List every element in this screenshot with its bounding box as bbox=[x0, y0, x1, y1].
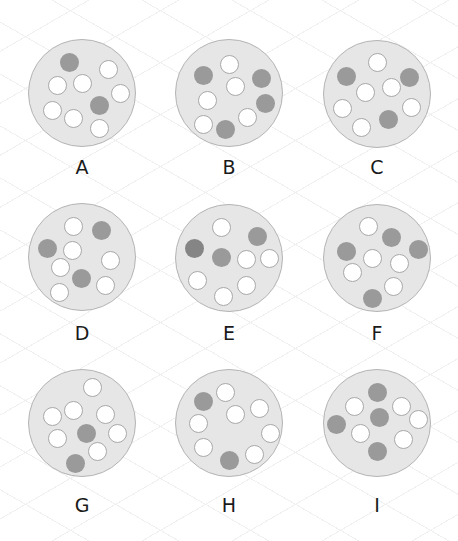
white-dot bbox=[51, 258, 70, 277]
gray-dot bbox=[194, 66, 213, 85]
gray-dot bbox=[368, 383, 387, 402]
white-dot bbox=[50, 283, 69, 302]
white-dot bbox=[189, 414, 208, 433]
gray-dot bbox=[370, 408, 389, 427]
white-dot bbox=[64, 109, 83, 128]
gray-dot bbox=[92, 221, 111, 240]
white-dot bbox=[343, 263, 362, 282]
white-dot bbox=[188, 271, 207, 290]
white-dot bbox=[238, 108, 257, 127]
white-dot bbox=[48, 429, 67, 448]
white-dot bbox=[237, 250, 256, 269]
white-dot bbox=[409, 410, 428, 429]
white-dot bbox=[43, 407, 62, 426]
gray-dot bbox=[216, 120, 235, 139]
gray-dot bbox=[379, 110, 398, 129]
gray-dot bbox=[72, 269, 91, 288]
white-dot bbox=[108, 424, 127, 443]
white-dot bbox=[345, 397, 364, 416]
option-label: C bbox=[370, 158, 383, 177]
white-dot bbox=[363, 249, 382, 268]
gray-dot bbox=[185, 239, 204, 258]
white-dot bbox=[245, 445, 264, 464]
gray-dot bbox=[368, 442, 387, 461]
white-dot bbox=[368, 53, 387, 72]
gray-dot bbox=[400, 68, 419, 87]
gray-dot bbox=[337, 242, 356, 261]
option-label: I bbox=[374, 496, 380, 515]
gray-dot bbox=[90, 96, 109, 115]
gray-dot bbox=[60, 53, 79, 72]
white-dot bbox=[88, 442, 107, 461]
option-label: F bbox=[372, 324, 383, 343]
white-dot bbox=[352, 118, 371, 137]
white-dot bbox=[212, 218, 231, 237]
white-dot bbox=[220, 55, 239, 74]
gray-dot bbox=[252, 69, 271, 88]
white-dot bbox=[261, 424, 280, 443]
white-dot bbox=[351, 424, 370, 443]
gray-dot bbox=[66, 454, 85, 473]
option-label: A bbox=[76, 158, 89, 177]
white-dot bbox=[64, 401, 83, 420]
white-dot bbox=[390, 254, 409, 273]
white-dot bbox=[359, 217, 378, 236]
option-label: E bbox=[223, 324, 235, 343]
option-label: H bbox=[222, 496, 236, 515]
white-dot bbox=[356, 83, 375, 102]
white-dot bbox=[382, 78, 401, 97]
gray-dot bbox=[212, 248, 231, 267]
gray-dot bbox=[220, 451, 239, 470]
white-dot bbox=[226, 77, 245, 96]
gray-dot bbox=[77, 424, 96, 443]
white-dot bbox=[392, 397, 411, 416]
white-dot bbox=[384, 277, 403, 296]
white-dot bbox=[402, 98, 421, 117]
option-label: B bbox=[222, 158, 235, 177]
white-dot bbox=[216, 383, 235, 402]
option-label: G bbox=[75, 496, 90, 515]
gray-dot bbox=[409, 240, 428, 259]
white-dot bbox=[64, 217, 83, 236]
white-dot bbox=[96, 405, 115, 424]
white-dot bbox=[250, 399, 269, 418]
white-dot bbox=[99, 60, 118, 79]
white-dot bbox=[73, 74, 92, 93]
white-dot bbox=[394, 430, 413, 449]
white-dot bbox=[194, 438, 213, 457]
white-dot bbox=[96, 276, 115, 295]
white-dot bbox=[198, 91, 217, 110]
gray-dot bbox=[337, 67, 356, 86]
white-dot bbox=[43, 101, 62, 120]
white-dot bbox=[226, 405, 245, 424]
white-dot bbox=[83, 378, 102, 397]
white-dot bbox=[48, 76, 67, 95]
gray-dot bbox=[38, 239, 57, 258]
white-dot bbox=[237, 276, 256, 295]
option-label: D bbox=[75, 324, 90, 343]
white-dot bbox=[111, 84, 130, 103]
white-dot bbox=[194, 115, 213, 134]
white-dot bbox=[214, 287, 233, 306]
white-dot bbox=[260, 249, 279, 268]
gray-dot bbox=[363, 289, 382, 308]
white-dot bbox=[63, 241, 82, 260]
gray-dot bbox=[248, 227, 267, 246]
gray-dot bbox=[382, 228, 401, 247]
gray-dot bbox=[256, 94, 275, 113]
gray-dot bbox=[194, 392, 213, 411]
white-dot bbox=[101, 251, 120, 270]
white-dot bbox=[90, 119, 109, 138]
gray-dot bbox=[327, 415, 346, 434]
white-dot bbox=[333, 99, 352, 118]
